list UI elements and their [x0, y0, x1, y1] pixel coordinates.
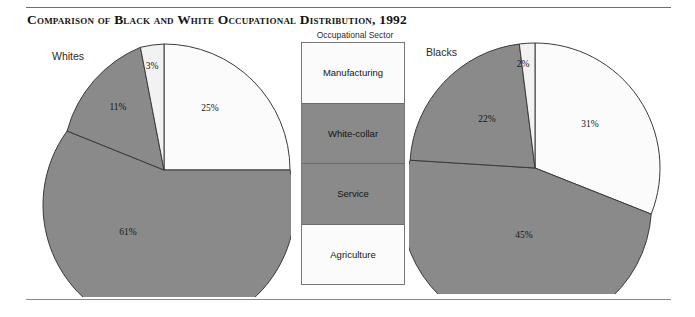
page-title: Comparison of Black and White Occupation…	[27, 12, 407, 28]
pie-chart-whites	[37, 43, 291, 297]
legend-item-label: White-collar	[328, 128, 378, 139]
top-rule	[26, 7, 671, 8]
legend-item-label: Manufacturing	[323, 67, 383, 78]
legend-item-white-collar[interactable]: White-collar	[302, 104, 404, 165]
pie-chart-blacks	[409, 42, 661, 294]
pct-blacks-white-collar: 45%	[515, 230, 532, 240]
legend-box: Manufacturing White-collar Service Agric…	[301, 42, 405, 285]
bottom-rule	[26, 299, 671, 300]
pct-whites-agriculture: 3%	[146, 61, 159, 71]
pie-label-whites: Whites	[52, 50, 84, 62]
legend-item-label: Service	[337, 188, 369, 199]
figure-container: Comparison of Black and White Occupation…	[0, 0, 695, 317]
pct-blacks-manufacturing: 31%	[581, 119, 598, 129]
pct-whites-white-collar: 61%	[119, 227, 136, 237]
legend-item-agriculture[interactable]: Agriculture	[302, 225, 404, 285]
slice-whites-manufacturing	[164, 44, 290, 170]
pct-whites-service: 11%	[109, 102, 126, 112]
pie-whites-svg	[37, 43, 291, 297]
pie-label-blacks: Blacks	[426, 46, 457, 58]
legend-item-label: Agriculture	[330, 249, 375, 260]
pct-blacks-agriculture: 2%	[517, 59, 530, 69]
legend-item-service[interactable]: Service	[302, 164, 404, 225]
legend-item-manufacturing[interactable]: Manufacturing	[302, 43, 404, 104]
pct-whites-manufacturing: 25%	[201, 103, 218, 113]
pct-blacks-service: 22%	[478, 114, 495, 124]
pie-blacks-svg	[409, 42, 661, 294]
legend-title: Occupational Sector	[304, 30, 406, 40]
